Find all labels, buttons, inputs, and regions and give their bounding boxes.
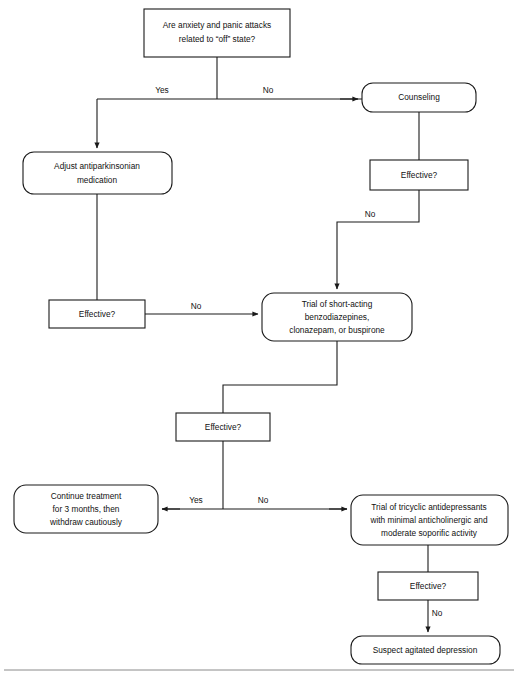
edge-label-benzo-yes: Yes (189, 495, 203, 505)
node-trial-tricyclic-line-3: moderate soporific activity (381, 528, 478, 538)
edge-benzo-to-effective (223, 341, 337, 413)
node-trial-benzodiazepines-line-3: clonazepam, or buspirone (289, 325, 385, 335)
node-adjust-medication-line-1: Adjust antiparkinsonian (54, 161, 140, 171)
node-trial-tricyclic[interactable]: Trial of tricyclic antidepressants with … (351, 495, 508, 545)
node-root-question-box (144, 9, 290, 57)
node-trial-benzodiazepines-line-2: benzodiazepines, (305, 312, 370, 322)
node-counseling[interactable]: Counseling (362, 83, 476, 112)
node-root-question-line-1: Are anxiety and panic attacks (163, 20, 271, 30)
node-effective-tricyclic-label: Effective? (410, 581, 447, 591)
node-effective-medication[interactable]: Effective? (49, 300, 145, 328)
node-trial-tricyclic-line-1: Trial of tricyclic antidepressants (371, 502, 486, 512)
node-effective-benzodiazepines[interactable]: Effective? (176, 413, 270, 441)
edge-label-benzo-no: No (258, 495, 269, 505)
node-continue-treatment-line-3: withdraw cautiously (49, 517, 123, 527)
node-continue-treatment-line-1: Continue treatment (51, 491, 122, 501)
edge-label-root-yes: Yes (155, 85, 169, 95)
node-adjust-medication[interactable]: Adjust antiparkinsonian medication (23, 152, 172, 194)
node-counseling-label: Counseling (398, 92, 440, 102)
flowchart-canvas: Yes No No No Yes No No Are anxiety and p… (0, 0, 518, 675)
node-effective-counseling-label: Effective? (401, 170, 438, 180)
edge-counseling-no (337, 190, 419, 289)
node-adjust-medication-box (23, 152, 172, 194)
node-suspect-depression-label: Suspect agitated depression (373, 645, 478, 655)
node-trial-benzodiazepines[interactable]: Trial of short-acting benzodiazepines, c… (262, 293, 412, 341)
node-root-question[interactable]: Are anxiety and panic attacks related to… (144, 9, 290, 57)
node-root-question-line-2: related to “off” state? (179, 34, 256, 44)
node-effective-counseling[interactable]: Effective? (370, 160, 468, 190)
node-effective-benzodiazepines-label: Effective? (205, 422, 242, 432)
node-trial-tricyclic-line-2: with minimal anticholinergic and (369, 515, 488, 525)
node-continue-treatment[interactable]: Continue treatment for 3 months, then wi… (14, 485, 158, 533)
node-trial-benzodiazepines-line-1: Trial of short-acting (302, 299, 373, 309)
edge-label-root-no: No (263, 85, 274, 95)
edge-label-medication-no: No (191, 301, 202, 311)
node-suspect-depression[interactable]: Suspect agitated depression (351, 636, 500, 664)
node-effective-tricyclic[interactable]: Effective? (378, 572, 478, 600)
flowchart-diagram: Yes No No No Yes No No Are anxiety and p… (0, 0, 518, 675)
node-adjust-medication-line-2: medication (77, 175, 118, 185)
node-continue-treatment-line-2: for 3 months, then (53, 504, 120, 514)
node-effective-medication-label: Effective? (79, 309, 116, 319)
edge-label-counseling-no: No (365, 209, 376, 219)
edge-label-tricyclic-no: No (432, 608, 443, 618)
